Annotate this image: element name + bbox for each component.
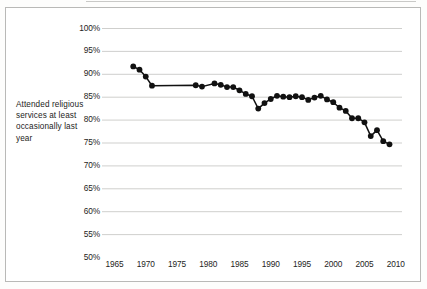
data-point <box>237 87 243 93</box>
data-point <box>387 141 393 147</box>
data-point <box>262 100 268 106</box>
data-point <box>212 81 218 87</box>
data-point <box>293 93 299 99</box>
x-tick-1970: 1970 <box>131 260 161 269</box>
data-point <box>287 94 293 100</box>
data-point <box>230 84 236 90</box>
data-point <box>355 115 361 121</box>
data-point <box>318 93 324 99</box>
data-point <box>243 91 249 97</box>
x-tick-2010: 2010 <box>381 260 411 269</box>
y-tick-90%: 90% <box>74 69 100 78</box>
data-point <box>312 95 318 101</box>
data-point <box>224 84 230 90</box>
data-point <box>268 96 274 102</box>
data-point <box>280 94 286 100</box>
x-tick-1965: 1965 <box>100 260 130 269</box>
data-point <box>218 82 224 88</box>
data-point <box>337 105 343 111</box>
data-point <box>349 115 355 121</box>
x-tick-2005: 2005 <box>350 260 380 269</box>
data-point <box>143 74 149 80</box>
data-point <box>255 106 261 112</box>
data-point <box>249 93 255 99</box>
data-point <box>193 82 199 88</box>
plot-area <box>102 28 402 257</box>
data-point <box>305 97 311 103</box>
data-line <box>133 66 389 144</box>
y-tick-100%: 100% <box>74 24 100 33</box>
chart-figure: Attended religious services at least occ… <box>0 0 427 289</box>
x-tick-1990: 1990 <box>256 260 286 269</box>
x-tick-1995: 1995 <box>287 260 317 269</box>
y-tick-85%: 85% <box>74 92 100 101</box>
data-point <box>362 119 368 125</box>
y-tick-70%: 70% <box>74 161 100 170</box>
data-point <box>374 127 380 133</box>
data-point <box>299 94 305 100</box>
x-tick-1975: 1975 <box>162 260 192 269</box>
x-tick-1985: 1985 <box>225 260 255 269</box>
data-point <box>324 97 330 103</box>
x-tick-1980: 1980 <box>193 260 223 269</box>
data-point <box>137 67 143 73</box>
line-chart-svg <box>102 28 402 257</box>
y-tick-80%: 80% <box>74 115 100 124</box>
data-point <box>380 138 386 144</box>
top-rule <box>86 1 416 2</box>
data-point <box>274 93 280 99</box>
data-point <box>330 99 336 105</box>
x-tick-2000: 2000 <box>318 260 348 269</box>
data-point <box>149 83 155 89</box>
data-point <box>199 84 205 90</box>
data-point <box>130 64 136 70</box>
y-axis-tick-labels: 50%55%60%65%70%75%80%85%90%95%100% <box>72 0 100 289</box>
y-tick-95%: 95% <box>74 46 100 55</box>
data-point <box>343 108 349 114</box>
x-axis-tick-labels: 1965197019751980198519901995200020052010 <box>0 260 427 274</box>
data-point <box>368 133 374 139</box>
y-tick-65%: 65% <box>74 184 100 193</box>
y-tick-60%: 60% <box>74 207 100 216</box>
y-tick-55%: 55% <box>74 230 100 239</box>
y-tick-75%: 75% <box>74 138 100 147</box>
